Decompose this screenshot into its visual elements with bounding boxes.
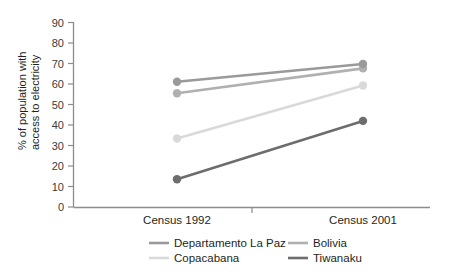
legend-item-tiwanaku[interactable]: Tiwanaku <box>288 252 362 264</box>
y-tick-label-20: 20 <box>52 160 64 172</box>
y-tick-label-50: 50 <box>52 99 64 111</box>
y-tick-label-30: 30 <box>52 140 64 152</box>
y-tick-label-80: 80 <box>52 37 64 49</box>
y-tick-label-70: 70 <box>52 58 64 70</box>
data-point-departamento-la-paz-2001 <box>359 60 367 68</box>
data-point-copacabana-1992 <box>173 134 181 142</box>
y-tick-label-10: 10 <box>52 181 64 193</box>
chart-legend: Departamento La Paz Bolivia Copacabana T… <box>149 237 362 264</box>
y-tick-label-90: 90 <box>52 17 64 29</box>
series-tiwanaku <box>173 117 367 184</box>
legend-item-copacabana[interactable]: Copacabana <box>149 252 240 264</box>
y-axis-tick-labels: 90 80 70 60 50 40 30 20 10 0 <box>52 17 64 214</box>
y-axis-ticks <box>68 23 74 208</box>
legend-item-departamento-la-paz[interactable]: Departamento La Paz <box>149 237 286 249</box>
y-axis-label-line2: access to electricity <box>29 54 41 150</box>
y-tick-label-60: 60 <box>52 78 64 90</box>
data-point-copacabana-2001 <box>359 81 367 89</box>
legend-label-tiwanaku: Tiwanaku <box>313 252 362 264</box>
x-tick-label-census-1992: Census 1992 <box>143 214 211 226</box>
y-tick-label-40: 40 <box>52 119 64 131</box>
data-point-departamento-la-paz-1992 <box>173 78 181 86</box>
legend-label-bolivia: Bolivia <box>313 237 347 249</box>
legend-item-bolivia[interactable]: Bolivia <box>288 237 347 249</box>
y-axis-label-line1: % of population with <box>16 52 28 150</box>
line-chart: % of population with access to electrici… <box>0 0 466 276</box>
data-point-bolivia-1992 <box>173 89 181 97</box>
legend-label-copacabana: Copacabana <box>174 252 240 264</box>
y-tick-label-0: 0 <box>58 201 64 213</box>
legend-label-departamento-la-paz: Departamento La Paz <box>174 237 286 249</box>
data-point-tiwanaku-1992 <box>173 175 181 183</box>
x-tick-label-census-2001: Census 2001 <box>329 214 397 226</box>
chart-figure: % of population with access to electrici… <box>0 0 466 276</box>
data-point-tiwanaku-2001 <box>359 117 367 125</box>
